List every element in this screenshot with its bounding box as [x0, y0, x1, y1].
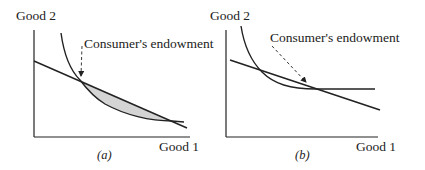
annotation-label: Consumer's endowment: [270, 30, 400, 45]
panel-a: Good 2 Consumer's endowment Good 1 (a): [16, 8, 214, 162]
budget-line: [34, 61, 187, 128]
diagram-figure: Good 2 Consumer's endowment Good 1 (a) G…: [0, 0, 425, 170]
panel-caption: (b): [295, 148, 310, 162]
panel-b: Good 2 Consumer's endowment Good 1 (b): [210, 8, 400, 162]
endowment-arrow: [272, 46, 306, 82]
panel-caption: (a): [97, 148, 112, 162]
budget-line: [230, 60, 380, 110]
y-axis-label: Good 2: [16, 8, 56, 23]
x-axis-label: Good 1: [159, 139, 199, 154]
endowment-arrow: [81, 46, 82, 76]
annotation-label: Consumer's endowment: [84, 36, 214, 51]
y-axis-label: Good 2: [210, 8, 250, 23]
x-axis-label: Good 1: [356, 139, 396, 154]
